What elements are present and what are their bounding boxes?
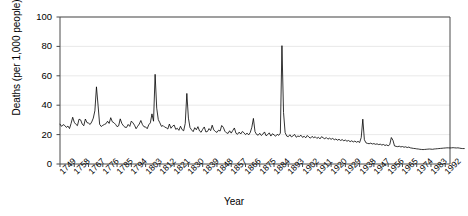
y-tick-label: 100 (26, 12, 52, 21)
chart-plot-area (0, 0, 468, 216)
y-tick-label: 80 (26, 41, 52, 50)
y-tick-label: 20 (26, 130, 52, 139)
y-tick-label: 60 (26, 71, 52, 80)
y-tick-label: 0 (26, 159, 52, 168)
y-tick-label: 40 (26, 100, 52, 109)
data-series-line (60, 46, 464, 150)
x-axis-title: Year (0, 196, 468, 207)
line-chart: Deaths (per 1,000 people) 020406080100 1… (0, 0, 468, 216)
